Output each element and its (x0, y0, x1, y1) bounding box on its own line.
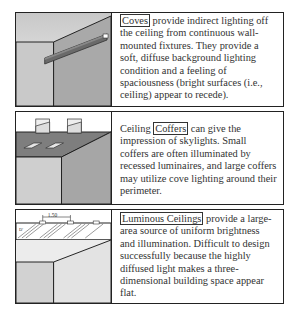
cove-lighting-illustration (16, 13, 112, 106)
angle-label: D' (19, 227, 23, 232)
ceiling-coffers-illustration (16, 112, 112, 204)
dimension-label: 1.50 (48, 212, 58, 218)
coffers-panel: Ceiling Coffers can give the impression … (15, 111, 284, 205)
coffers-description: Ceiling Coffers can give the impression … (120, 123, 277, 197)
term-coffers: Coffers (153, 122, 188, 135)
luminous-ceilings-description: Luminous Ceilings provide a large-area s… (120, 213, 277, 300)
luminous-ceiling-illustration: 1.50 D' (16, 210, 112, 303)
coves-panel: Coves provide indirect lighting off the … (15, 12, 284, 107)
term-luminous-ceilings: Luminous Ceilings (120, 212, 203, 225)
coves-description: Coves provide indirect lighting off the … (120, 15, 277, 102)
luminous-ceilings-panel: 1.50 D' Luminous Ceilings provide a larg… (15, 209, 284, 304)
term-coves: Coves (120, 14, 150, 27)
